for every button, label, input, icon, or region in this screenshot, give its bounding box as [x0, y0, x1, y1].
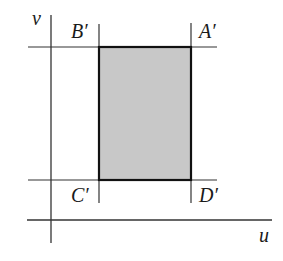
vertex-label-b: B′ — [71, 20, 88, 42]
uv-diagram: v B′ A′ C′ D′ u — [0, 0, 283, 261]
u-axis-label: u — [259, 224, 269, 246]
vertex-label-c: C′ — [71, 184, 89, 206]
vertex-label-d: D′ — [198, 184, 218, 206]
vertex-label-a: A′ — [197, 20, 216, 42]
shaded-region — [99, 47, 191, 180]
v-axis-label: v — [32, 7, 41, 29]
